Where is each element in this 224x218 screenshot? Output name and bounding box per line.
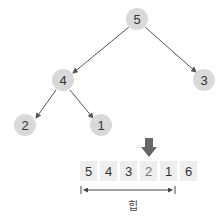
array-cell: 3 [120, 161, 137, 181]
heap-range-label: 힙 [128, 197, 138, 213]
tree-node-left: 4 [52, 69, 74, 91]
array-cell: 1 [160, 161, 177, 181]
array-cell-highlighted: 2 [140, 161, 157, 181]
array-cell: 6 [180, 161, 197, 181]
tree-edges [0, 0, 224, 218]
array-cell: 4 [100, 161, 117, 181]
tree-node-left-left: 2 [14, 114, 36, 136]
tree-node-right: 3 [193, 69, 215, 91]
down-arrow-icon [141, 138, 157, 157]
edge-4-1 [70, 90, 93, 118]
array-cell: 5 [80, 161, 97, 181]
edge-5-4 [73, 27, 129, 73]
tree-node-root: 5 [126, 8, 148, 30]
edge-5-3 [145, 27, 196, 72]
tree-node-left-right: 1 [90, 114, 112, 136]
edge-4-2 [36, 90, 56, 118]
heap-array: 5 4 3 2 1 6 [80, 161, 197, 181]
